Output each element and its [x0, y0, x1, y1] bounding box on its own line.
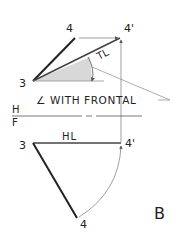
label-true-length: TL — [94, 46, 111, 62]
descriptive-geometry-diagram: 3 4 4' TL ∠ WITH FRONTAL H F 3 HL 4' 4 B — [0, 0, 184, 232]
label-point-4-front: 4 — [80, 218, 87, 231]
fold-line-group: H F — [12, 104, 142, 128]
rotation-arc — [79, 146, 121, 217]
label-point-3-top: 3 — [19, 77, 26, 90]
fold-label-h: H — [12, 104, 20, 115]
label-point-3-front: 3 — [19, 139, 26, 152]
fold-label-f: F — [12, 117, 18, 128]
front-view: 3 HL 4' 4 — [19, 131, 135, 231]
label-hl: HL — [62, 131, 77, 142]
label-point-4-prime-front: 4' — [125, 137, 135, 150]
label-point-4-prime-top: 4' — [124, 22, 134, 35]
line-3-4-front — [33, 143, 77, 218]
label-point-4-top: 4 — [66, 22, 73, 35]
top-view: 3 4 4' TL ∠ WITH FRONTAL — [19, 22, 170, 142]
angle-callout: ∠ WITH FRONTAL — [36, 94, 136, 106]
panel-label: B — [154, 204, 165, 223]
